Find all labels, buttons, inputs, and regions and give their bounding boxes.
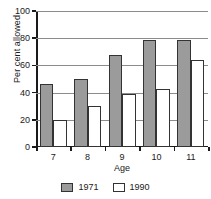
x-tick-mark	[139, 147, 141, 151]
legend-swatch-1971	[61, 183, 73, 192]
x-tick-mark	[174, 147, 176, 151]
x-tick-label-9: 9	[119, 152, 124, 162]
y-tick-label: 40	[20, 88, 30, 98]
bar-1990-age-10	[156, 89, 170, 147]
bar-1971-age-10	[143, 40, 157, 147]
y-tick-mark	[32, 37, 36, 39]
y-tick-mark	[32, 119, 36, 121]
legend-label-1990: 1990	[130, 182, 150, 192]
bar-1971-age-8	[74, 79, 88, 147]
x-tick-mark	[208, 147, 210, 151]
legend-label-1971: 1971	[78, 182, 98, 192]
bar-chart: Per cent allowed 020406080100 7891011 Ag…	[0, 0, 211, 199]
bar-1990-age-9	[122, 94, 136, 147]
bar-1971-age-9	[109, 55, 123, 147]
x-tick-label-10: 10	[151, 152, 161, 162]
x-tick-mark	[70, 147, 72, 151]
x-tick-mark	[105, 147, 107, 151]
y-tick-label: 20	[20, 115, 30, 125]
y-tick-label: 80	[20, 33, 30, 43]
x-tick-label-11: 11	[186, 152, 195, 162]
y-tick-label: 100	[15, 6, 30, 16]
bar-1990-age-11	[191, 60, 205, 147]
y-axis-line	[36, 11, 38, 147]
y-tick-mark	[32, 10, 36, 12]
bar-1971-age-7	[40, 84, 54, 147]
y-tick-label: 0	[25, 142, 30, 152]
bar-1990-age-7	[53, 120, 67, 147]
plot-area: 020406080100 7891011	[36, 11, 208, 147]
legend-item-1971: 1971	[61, 182, 98, 192]
x-axis-title: Age	[36, 163, 208, 173]
legend-swatch-1990	[113, 183, 125, 192]
bar-1990-age-8	[88, 106, 102, 147]
x-tick-label-7: 7	[51, 152, 56, 162]
legend-item-1990: 1990	[113, 182, 150, 192]
y-tick-label: 60	[20, 60, 30, 70]
gridline	[36, 11, 208, 12]
bar-1971-age-11	[177, 40, 191, 147]
y-tick-mark	[32, 65, 36, 67]
legend: 1971 1990	[0, 182, 211, 192]
x-tick-label-8: 8	[85, 152, 90, 162]
y-tick-mark	[32, 92, 36, 94]
x-tick-mark	[36, 147, 38, 151]
